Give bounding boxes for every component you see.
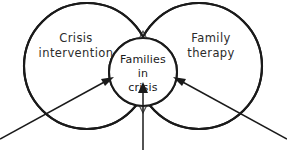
center-circle-label-line2: in	[138, 67, 148, 80]
arrow-line-bottom-right	[179, 80, 287, 139]
left-circle-label-line1: Crisis	[59, 31, 93, 45]
center-circle-label-line1: Families	[120, 53, 166, 66]
right-circle-label-line1: Family	[191, 31, 230, 45]
center-circle-label-line3: crisis	[128, 81, 157, 94]
arrow-line-bottom-left	[0, 80, 108, 139]
venn-diagram-canvas: Crisis intervention Family therapy Famil…	[0, 0, 287, 150]
left-circle-label-line2: intervention	[39, 46, 114, 60]
venn-diagram-container: Crisis intervention Family therapy Famil…	[0, 0, 287, 150]
right-circle-label-line2: therapy	[187, 46, 235, 60]
